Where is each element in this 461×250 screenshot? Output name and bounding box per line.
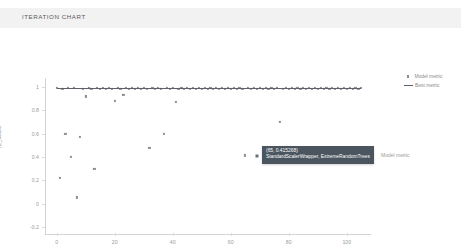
- chart-legend: Model metric Best metric: [404, 72, 460, 90]
- x-tick-label: 20: [104, 239, 126, 245]
- square-dot-icon: [407, 75, 409, 77]
- scatter-point[interactable]: [64, 133, 66, 135]
- scatter-point[interactable]: [58, 177, 60, 179]
- x-tick-mark: [173, 233, 174, 236]
- tooltip-anchor-point: [256, 155, 259, 158]
- scatter-point[interactable]: [70, 156, 72, 158]
- y-tick-label: -0.2: [17, 224, 39, 230]
- x-tick-mark: [289, 233, 290, 236]
- scatter-point[interactable]: [93, 168, 95, 170]
- scatter-point[interactable]: [244, 154, 246, 156]
- legend-label: Model metric: [414, 74, 442, 79]
- page-title: ITERATION CHART: [22, 13, 86, 20]
- scatter-point[interactable]: [163, 133, 165, 135]
- legend-item-best-metric[interactable]: Best metric: [404, 81, 460, 90]
- tooltip-series-label: Model metric: [381, 152, 410, 158]
- x-tick-mark: [57, 233, 58, 236]
- y-tick-label: 0.6: [17, 131, 39, 137]
- scatter-point[interactable]: [85, 95, 87, 97]
- tooltip-pipeline-name: StandardScalerWrapper, ExtremeRandomTree…: [266, 154, 370, 160]
- x-tick-label: 100: [336, 239, 358, 245]
- scatter-point[interactable]: [174, 101, 176, 103]
- x-axis-line: [45, 234, 371, 235]
- best-metric-line: [57, 88, 362, 89]
- y-tick-label: 0: [17, 201, 39, 207]
- iteration-chart: 10.80.60.40.20-0.2 020406080100 r2_score…: [0, 28, 461, 250]
- legend-label: Best metric: [415, 83, 439, 88]
- scatter-point[interactable]: [279, 121, 281, 123]
- x-tick-mark: [347, 233, 348, 236]
- x-tick-label: 60: [220, 239, 242, 245]
- x-tick-mark: [231, 233, 232, 236]
- x-tick-label: 0: [46, 239, 68, 245]
- line-swatch-icon: [404, 85, 413, 86]
- x-tick-mark: [115, 233, 116, 236]
- scatter-point[interactable]: [122, 94, 124, 96]
- y-tick-label: 0.4: [17, 154, 39, 160]
- scatter-point[interactable]: [148, 147, 150, 149]
- scatter-point[interactable]: [79, 136, 81, 138]
- y-tick-label: 0.2: [17, 177, 39, 183]
- x-tick-label: 80: [278, 239, 300, 245]
- x-tick-label: 40: [162, 239, 184, 245]
- hover-tooltip: (65, 0.415268) StandardScalerWrapper, Ex…: [262, 146, 374, 164]
- y-tick-label: 1: [17, 84, 39, 90]
- legend-item-model-metric[interactable]: Model metric: [404, 72, 460, 81]
- y-axis-title: r2_score: [0, 125, 2, 148]
- scatter-point[interactable]: [76, 196, 78, 198]
- scatter-point[interactable]: [114, 100, 116, 102]
- y-tick-label: 0.8: [17, 107, 39, 113]
